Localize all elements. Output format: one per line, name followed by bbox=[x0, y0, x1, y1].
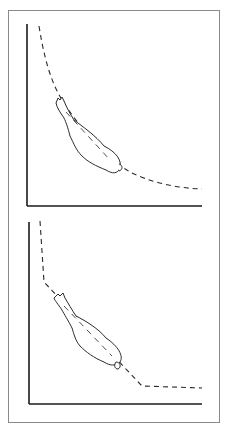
diagram-canvas bbox=[0, 0, 230, 432]
bottom-gourd-shape bbox=[54, 293, 121, 369]
top-panel bbox=[27, 24, 202, 206]
top-gourd-shape bbox=[56, 97, 122, 173]
bottom-panel bbox=[29, 221, 202, 404]
